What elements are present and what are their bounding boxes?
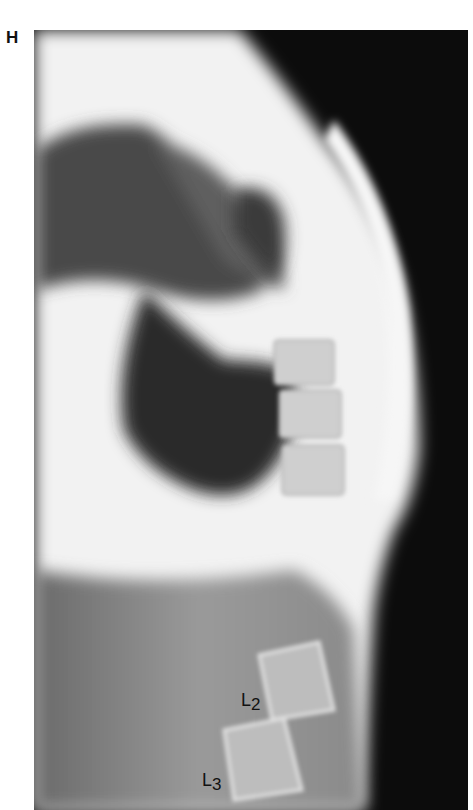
vertebra-label-l2: L2 [241,690,260,711]
vertebra-label-l2-base: L [241,690,251,710]
vertebra-label-l3-base: L [202,770,212,790]
vertebra-label-l3: L3 [202,770,221,791]
vertebra-label-l3-sub: 3 [212,775,221,794]
vertebra-label-l2-sub: 2 [251,695,260,714]
radiograph-image: L2 L3 [34,30,468,810]
panel-label: H [6,28,18,48]
